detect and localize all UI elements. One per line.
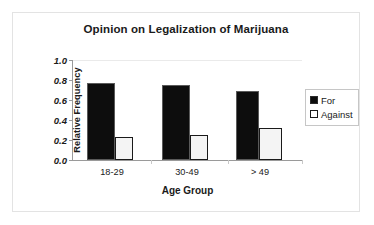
chart-legend: For Against	[305, 89, 359, 126]
x-axis-tick-label: 30-49	[175, 167, 199, 177]
x-tick-mark-icon	[228, 160, 229, 164]
y-tick-mark-icon	[69, 80, 73, 81]
legend-label: Against	[321, 109, 353, 120]
y-tick-mark-icon	[69, 60, 73, 61]
bar-for[interactable]	[87, 83, 115, 160]
y-tick-mark-icon	[69, 140, 73, 141]
y-axis-tick-label: 0.8	[54, 75, 67, 86]
y-tick-mark-icon	[69, 120, 73, 121]
x-tick-mark-icon	[302, 160, 303, 164]
legend-item-for[interactable]: For	[310, 93, 353, 107]
outlined-square-icon	[310, 110, 318, 118]
bar-for[interactable]	[162, 85, 190, 160]
x-axis-title: Age Group	[73, 185, 302, 196]
y-axis-tick-label: 1.0	[54, 55, 67, 66]
bar-group: 18-29	[75, 60, 149, 160]
y-axis-tick-label: 0.2	[54, 135, 67, 146]
bar-against[interactable]	[259, 128, 282, 160]
bar-for[interactable]	[236, 91, 259, 160]
plot-area: Relative Frequency 1.0 0.8 0.6 0.4 0.2 0…	[72, 60, 302, 161]
legend-item-against[interactable]: Against	[310, 107, 353, 121]
x-axis-tick-label: 18-29	[100, 167, 124, 177]
x-axis-tick-label: > 49	[251, 167, 269, 177]
bar-against[interactable]	[190, 135, 208, 160]
y-tick-mark-icon	[69, 100, 73, 101]
bar-group: 30-49	[149, 60, 226, 160]
y-axis-tick-label: 0.0	[54, 155, 67, 166]
filled-square-icon	[310, 96, 318, 104]
y-axis-tick-label: 0.4	[54, 115, 67, 126]
legend-label: For	[321, 95, 335, 106]
x-tick-mark-icon	[151, 160, 152, 164]
chart-frame: Opinion on Legalization of Marijuana Rel…	[12, 12, 360, 212]
y-axis-tick-label: 0.6	[54, 95, 67, 106]
chart-title: Opinion on Legalization of Marijuana	[13, 23, 359, 35]
bar-group: > 49	[226, 60, 303, 160]
y-tick-mark-icon	[69, 160, 73, 161]
bar-against[interactable]	[115, 137, 133, 160]
